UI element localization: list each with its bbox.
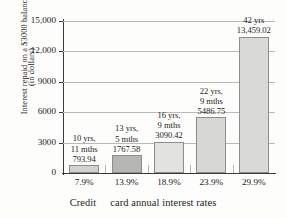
annotation-line: 9 mths: [184, 96, 238, 106]
bar-chart: Interest repaid on a $3000 balance (in d…: [0, 0, 286, 218]
annotation-line: 13,459.02: [227, 25, 281, 35]
bar: [196, 117, 226, 173]
category-separator: [148, 165, 149, 173]
x-axis-title: Creditcard annual interest rates: [0, 197, 286, 208]
bar-value-annotation: 22 yrs,9 mths5486.75: [184, 86, 238, 117]
annotation-line: 1767.58: [99, 144, 153, 154]
y-axis-tick-label: 3000: [38, 138, 56, 147]
category-separator: [105, 165, 106, 173]
x-axis-title-part-2: card annual interest rates: [110, 197, 216, 208]
y-axis-tick-label: 6000: [38, 108, 56, 117]
x-axis-tick-label: 29.9%: [233, 178, 275, 187]
x-axis-title-part-1: Credit: [70, 197, 97, 208]
annotation-line: 42 yrs: [227, 15, 281, 25]
y-axis-tick-label: 12,000: [31, 47, 56, 56]
x-axis-tick-label: 18.9%: [148, 178, 190, 187]
x-axis-tick-label: 7.9%: [63, 178, 105, 187]
y-axis-tick: [59, 51, 63, 52]
bar: [239, 37, 269, 173]
bar: [69, 165, 99, 173]
bar-value-annotation: 42 yrs13,459.02: [227, 15, 281, 35]
annotation-line: 22 yrs,: [184, 86, 238, 96]
annotation-line: 5486.75: [184, 106, 238, 116]
x-axis-tick-label: 13.9%: [105, 178, 147, 187]
category-separator: [233, 165, 234, 173]
y-axis-tick-label: 0: [51, 168, 56, 177]
category-separator: [190, 165, 191, 173]
annotation-line: 9 mths: [142, 120, 196, 130]
y-axis-tick: [59, 82, 63, 83]
bar: [154, 142, 184, 173]
y-axis-tick-label: 9000: [38, 77, 56, 86]
x-axis-tick-label: 23.9%: [190, 178, 232, 187]
x-axis-line: [62, 173, 276, 174]
y-axis-tick: [59, 112, 63, 113]
y-axis-tick: [59, 21, 63, 22]
annotation-line: 3090.42: [142, 130, 196, 140]
y-axis-tick-label: 15,000: [31, 16, 56, 25]
annotation-line: 793.94: [57, 154, 111, 164]
bar: [112, 155, 142, 173]
